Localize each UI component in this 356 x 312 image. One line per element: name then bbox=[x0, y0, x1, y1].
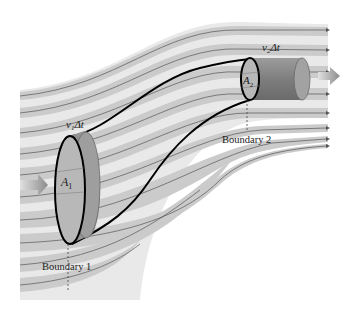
label-boundary-2: Boundary 2 bbox=[222, 134, 271, 145]
flow-diagram: v1Δt v2Δt A1 A2 Boundary 1 Boundary 2 bbox=[0, 0, 356, 312]
label-boundary-1: Boundary 1 bbox=[42, 261, 91, 272]
cylinder-boundary-2 bbox=[241, 58, 310, 100]
label-v1-dt: v1Δt bbox=[66, 118, 85, 132]
label-v2-dt: v2Δt bbox=[262, 41, 281, 55]
diagram-canvas: v1Δt v2Δt A1 A2 Boundary 1 Boundary 2 bbox=[0, 0, 356, 312]
